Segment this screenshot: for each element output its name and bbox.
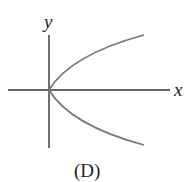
x-axis-label: x	[173, 79, 183, 100]
y-axis-label: y	[42, 11, 53, 32]
figure-caption: (D)	[74, 160, 100, 182]
parabola-diagram: y x (D)	[0, 0, 191, 182]
